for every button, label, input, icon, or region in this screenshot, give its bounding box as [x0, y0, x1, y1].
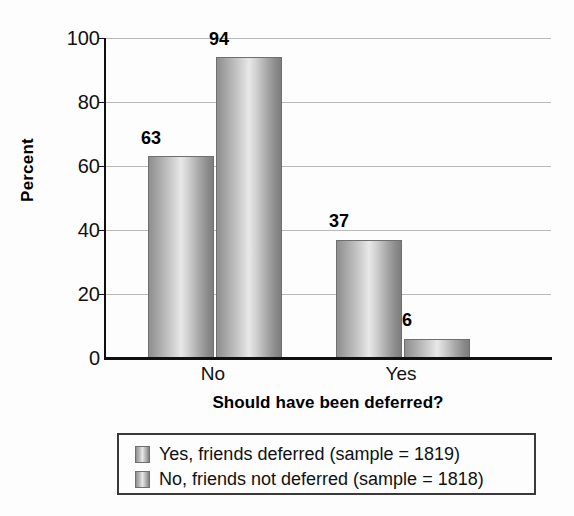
- legend-label: No, friends not deferred (sample = 1818): [159, 470, 484, 488]
- bar-value-63: 63: [118, 128, 184, 149]
- legend-label: Yes, friends deferred (sample = 1819): [159, 445, 460, 463]
- gridline-100: [105, 38, 551, 39]
- bar-yes-yes-deferred[interactable]: [336, 240, 402, 358]
- legend-item-no-friends-not-deferred[interactable]: No, friends not deferred (sample = 1818): [135, 467, 534, 491]
- legend-swatch-icon: [135, 471, 150, 488]
- x-category-label-no: No: [148, 363, 278, 385]
- plot-area: [105, 38, 551, 358]
- x-axis-title: Should have been deferred?: [105, 393, 551, 413]
- y-tick-label-0: 0: [44, 348, 100, 368]
- bar-value-94: 94: [186, 29, 252, 50]
- bar-value-6: 6: [374, 310, 440, 331]
- legend-swatch-icon: [135, 446, 150, 463]
- bar-value-37: 37: [306, 211, 372, 232]
- bar-no-yes-deferred[interactable]: [148, 156, 214, 358]
- y-tick-label-80: 80: [44, 92, 100, 112]
- bar-yes-no-deferred[interactable]: [404, 339, 470, 358]
- legend-item-yes-friends-deferred[interactable]: Yes, friends deferred (sample = 1819): [135, 442, 534, 466]
- bar-no-no-deferred[interactable]: [216, 57, 282, 358]
- legend: Yes, friends deferred (sample = 1819) No…: [117, 433, 536, 495]
- gridline-80: [105, 102, 551, 103]
- x-category-label-yes: Yes: [336, 363, 466, 385]
- y-axis-line: [104, 38, 106, 359]
- y-axis-title: Percent: [18, 110, 38, 230]
- y-tick-label-20: 20: [44, 284, 100, 304]
- y-axis-tick-labels: 100 80 60 40 20 0: [36, 0, 100, 516]
- y-tick-label-40: 40: [44, 220, 100, 240]
- y-tick-label-100: 100: [44, 28, 100, 48]
- x-axis-line: [104, 357, 552, 360]
- y-tick-label-60: 60: [44, 156, 100, 176]
- bar-chart: Percent 100 80 60 40 20 0 63 94 37 6 No …: [0, 0, 574, 516]
